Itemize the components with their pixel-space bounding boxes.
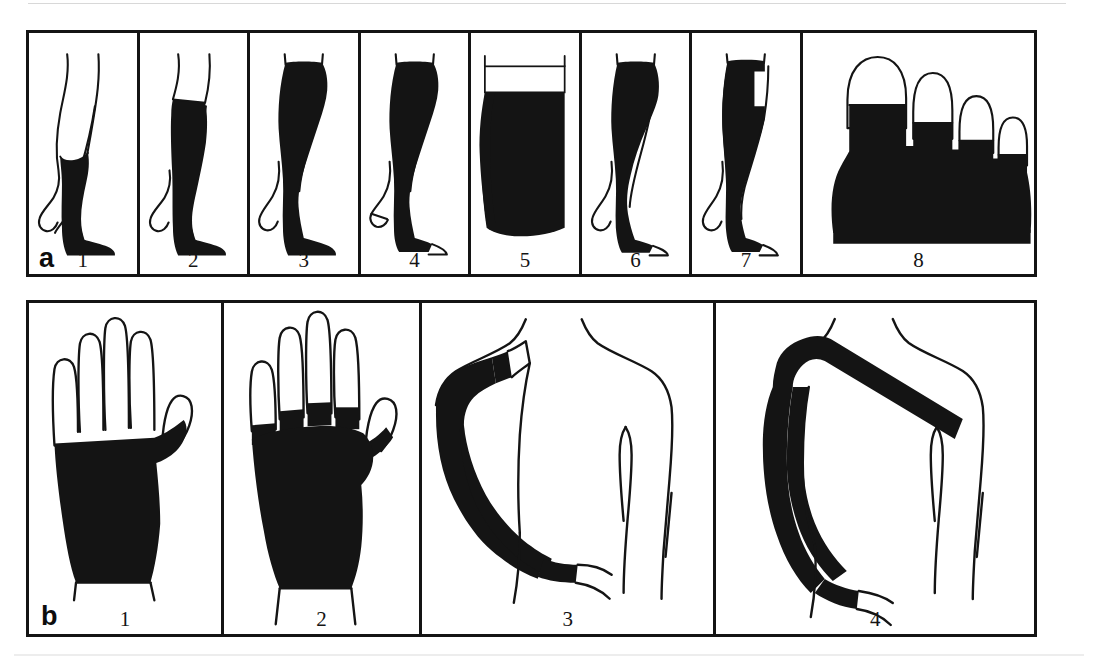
pantyhose-closed-toe-illustration [250,33,358,274]
cell-b-4: 4 [716,303,1034,634]
panel-label-b: b [41,603,58,630]
cell-number: 3 [422,609,713,630]
cell-number: 1 [29,609,221,630]
cell-number: 3 [250,250,358,271]
arm-sleeve-shoulder-strap-illustration [716,303,1034,634]
one-leg-tights-waist-attachment-illustration [692,33,800,274]
arm-sleeve-illustration [422,303,713,634]
cell-a-4: 4 [361,33,472,274]
cell-a-6: 6 [582,33,693,274]
panel-label-a: a [39,245,54,272]
cell-a-5: 5 [471,33,582,274]
cell-a-3: 3 [250,33,361,274]
cell-a-8: 8 [803,33,1034,274]
cell-number: 2 [140,250,248,271]
cell-a-2: 2 [140,33,251,274]
below-knee-stocking-illustration [29,33,137,274]
cell-b-3: 3 [422,303,716,634]
compression-glove-illustration [224,303,419,634]
bottom-rule [14,654,1084,656]
cell-number: 4 [716,609,1034,630]
cell-b-2: 2 [224,303,422,634]
cell-number: 6 [582,250,690,271]
panel-a: 1 2 [26,30,1037,277]
thigh-silicone-band-illustration [471,33,579,274]
cell-number: 4 [361,250,469,271]
cell-number: 5 [471,250,579,271]
thigh-high-stocking-illustration [140,33,248,274]
hand-gauntlet-illustration [29,303,221,634]
figure-root: 1 2 [0,0,1098,660]
cell-a-1: 1 [29,33,140,274]
one-leg-tights-illustration [582,33,690,274]
cell-number: 2 [224,609,419,630]
toe-cap-illustration [803,33,1034,274]
top-rule [28,3,1066,4]
cell-b-1: 1 [29,303,224,634]
pantyhose-open-toe-illustration [361,33,469,274]
cell-number: 7 [692,250,800,271]
panel-b: 1 [26,300,1037,637]
cell-number: 8 [803,250,1034,271]
cell-a-7: 7 [692,33,803,274]
